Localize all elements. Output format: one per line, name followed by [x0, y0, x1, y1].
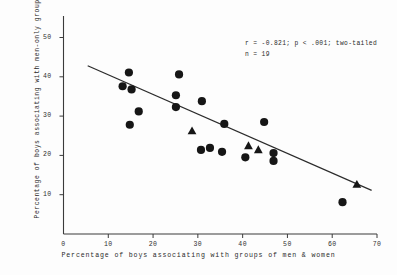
data-point-triangle [352, 180, 361, 188]
x-tick-label: 30 [188, 241, 208, 248]
data-point-circle [135, 107, 143, 115]
x-tick-label: 0 [54, 241, 74, 248]
data-point-circle [220, 120, 228, 128]
x-tick-label: 50 [277, 241, 297, 248]
x-tick-label: 60 [322, 241, 342, 248]
data-point-circle [127, 85, 135, 93]
sample-size-text: n = 19 [245, 49, 377, 60]
x-tick-label: 20 [143, 241, 163, 248]
x-tick-label: 70 [367, 241, 387, 248]
data-point-circle [269, 157, 277, 165]
data-point-circle [260, 118, 268, 126]
x-tick-label: 10 [98, 241, 118, 248]
data-point-circle [241, 153, 249, 161]
y-axis-label: Percentage of boys associating with men-… [34, 19, 41, 219]
data-point-circle [218, 148, 226, 156]
data-point-circle [125, 68, 133, 76]
data-point-circle [172, 103, 180, 111]
data-point-circle [119, 82, 127, 90]
data-point-circle [175, 70, 183, 78]
data-points [119, 68, 362, 206]
data-point-circle [206, 144, 214, 152]
data-point-triangle [244, 141, 253, 149]
scatter-plot-figure: 1020304050 010203040506070 Percentage of… [0, 0, 397, 275]
data-point-triangle [188, 126, 197, 134]
x-axis-ticks [108, 234, 377, 238]
correlation-statistic-text: r = -0.821; p < .001; two-tailed [245, 38, 377, 49]
x-tick-label: 40 [233, 241, 253, 248]
y-axis-ticks [60, 38, 64, 195]
data-point-circle [269, 149, 277, 157]
statistics-annotation: r = -0.821; p < .001; two-tailed n = 19 [245, 38, 377, 60]
data-point-triangle [254, 145, 263, 153]
x-axis-label: Percentage of boys associating with grou… [0, 252, 397, 259]
data-point-circle [126, 121, 134, 129]
data-point-circle [198, 97, 206, 105]
data-point-circle [172, 91, 180, 99]
data-point-circle [338, 198, 346, 206]
data-point-circle [197, 146, 205, 154]
